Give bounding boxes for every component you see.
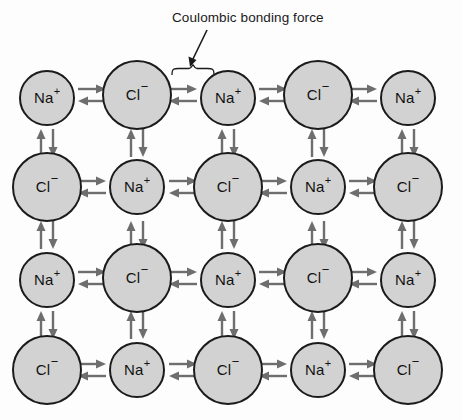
ion-label: Na+	[34, 272, 60, 287]
ion-chloride-r4c3: Cl−	[193, 335, 263, 405]
ion-label: Cl−	[397, 362, 419, 377]
ion-label: Na+	[305, 362, 331, 377]
ion-label: Na+	[395, 90, 421, 105]
bond-arrows-vertical	[393, 219, 423, 251]
ion-label: Cl−	[397, 179, 419, 194]
ion-sodium-r4c4: Na+	[290, 342, 346, 398]
ion-label: Na+	[215, 90, 241, 105]
ion-sodium-r2c4: Na+	[290, 159, 346, 215]
ion-sodium-r3c3: Na+	[200, 252, 256, 308]
ion-chloride-r2c1: Cl−	[12, 152, 82, 222]
ion-chloride-r4c1: Cl−	[12, 335, 82, 405]
ion-label: Cl−	[126, 87, 148, 102]
ion-label: Cl−	[307, 87, 329, 102]
ion-label: Cl−	[36, 179, 58, 194]
ion-label: Na+	[215, 272, 241, 287]
ion-label: Na+	[395, 272, 421, 287]
ion-chloride-r1c4: Cl−	[283, 60, 353, 130]
ion-sodium-r1c5: Na+	[380, 70, 436, 126]
bond-arrows-vertical	[122, 127, 152, 159]
ion-label: Na+	[124, 179, 150, 194]
ion-chloride-r3c4: Cl−	[283, 243, 353, 313]
ion-chloride-r3c2: Cl−	[102, 243, 172, 313]
ion-sodium-r3c1: Na+	[19, 252, 75, 308]
ion-sodium-r1c1: Na+	[19, 70, 75, 126]
ion-sodium-r3c5: Na+	[380, 252, 436, 308]
annotation-curly-brace	[171, 64, 215, 76]
ion-label: Cl−	[36, 362, 58, 377]
ion-sodium-r1c3: Na+	[200, 70, 256, 126]
ion-sodium-r4c2: Na+	[109, 342, 165, 398]
ionic-bonding-diagram: Coulombic bonding force Na+Cl−Na+Cl−Na+C…	[0, 0, 462, 420]
ion-chloride-r2c3: Cl−	[193, 152, 263, 222]
annotation-label: Coulombic bonding force	[172, 10, 324, 25]
ion-label: Cl−	[217, 362, 239, 377]
ion-label: Cl−	[217, 179, 239, 194]
ion-sodium-r2c2: Na+	[109, 159, 165, 215]
bond-arrows-vertical	[303, 127, 333, 159]
bond-arrows-vertical	[122, 309, 152, 341]
ion-chloride-r4c5: Cl−	[373, 335, 443, 405]
ion-chloride-r1c2: Cl−	[102, 60, 172, 130]
ion-label: Cl−	[126, 270, 148, 285]
ion-label: Na+	[305, 179, 331, 194]
bond-arrows-vertical	[213, 219, 243, 251]
ion-label: Na+	[34, 90, 60, 105]
bond-arrows-vertical	[303, 309, 333, 341]
ion-label: Na+	[124, 362, 150, 377]
ion-chloride-r2c5: Cl−	[373, 152, 443, 222]
bond-arrows-vertical	[32, 219, 62, 251]
ion-label: Cl−	[307, 270, 329, 285]
